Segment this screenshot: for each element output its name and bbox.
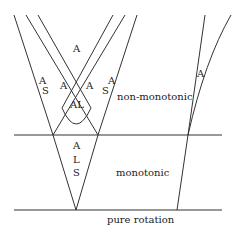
far-right-line [177, 15, 205, 210]
label-right-a: A [108, 76, 115, 86]
line-l1 [14, 15, 53, 135]
region-non-monotonic: non-monotonic [117, 92, 193, 102]
label-inner-right-a: A [86, 81, 93, 91]
label-left-s: S [42, 86, 49, 96]
label-top-a: A [73, 44, 80, 54]
al-cup-curve [62, 108, 91, 124]
region-monotonic: monotonic [116, 168, 169, 178]
label-right-s: S [102, 86, 109, 96]
far-right-curve [188, 15, 231, 135]
label-inner-left-a: A [60, 81, 67, 91]
label-far-right-a: A [197, 69, 204, 79]
label-v-a: A [73, 141, 80, 151]
label-al: AL [70, 100, 84, 110]
line-r3 [98, 15, 137, 135]
label-v-l: L [73, 155, 80, 165]
line-l2 [26, 15, 98, 135]
region-pure-rotation: pure rotation [107, 215, 174, 225]
label-v-s: S [73, 168, 80, 178]
phase-diagram [0, 0, 242, 234]
